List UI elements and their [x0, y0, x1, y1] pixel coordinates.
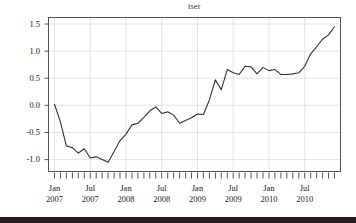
y-axis-tick-label: 0.0 [14, 100, 40, 110]
x-axis-tick-label: Jan2007 [35, 183, 75, 205]
x-axis-tick-label: Jul2008 [142, 183, 182, 205]
x-axis-tick-year: 2007 [35, 194, 75, 205]
x-axis-tick-year: 2010 [249, 194, 289, 205]
plot-frame [49, 18, 341, 172]
data-series-line [55, 27, 335, 163]
y-axis-tick-marks [45, 24, 49, 160]
x-axis-tick-month: Jan [35, 183, 75, 194]
x-axis-tick-year: 2007 [70, 194, 110, 205]
x-axis-tick-label: Jan2008 [106, 183, 146, 205]
x-axis-tick-month: Jan [249, 183, 289, 194]
x-axis-tick-label: Jan2010 [249, 183, 289, 205]
x-axis-tick-month: Jul [142, 183, 182, 194]
x-axis-tick-month: Jul [213, 183, 253, 194]
x-axis-tick-year: 2008 [106, 194, 146, 205]
x-axis-tick-year: 2008 [142, 194, 182, 205]
footer-bar [0, 217, 356, 223]
y-axis-tick-label: 0.5 [14, 73, 40, 83]
y-axis-tick-label: 1.5 [14, 19, 40, 29]
x-axis-tick-year: 2009 [177, 194, 217, 205]
x-axis-tick-month: Jul [285, 183, 325, 194]
x-axis-tick-label: Jul2007 [70, 183, 110, 205]
y-axis-tick-label: 1.0 [14, 46, 40, 56]
x-axis-tick-month: Jan [177, 183, 217, 194]
x-axis-minor-ticks [55, 173, 335, 179]
x-axis-tick-year: 2009 [213, 194, 253, 205]
x-axis-tick-label: Jan2009 [177, 183, 217, 205]
y-axis-tick-label: -0.5 [14, 127, 40, 137]
y-axis-tick-label: -1.0 [14, 154, 40, 164]
x-axis-tick-month: Jul [70, 183, 110, 194]
x-axis-tick-year: 2010 [285, 194, 325, 205]
chart-figure: tser 1.51.00.50.0-0.5-1.0 Jan2007Jul2007… [0, 0, 356, 223]
x-axis-tick-label: Jul2010 [285, 183, 325, 205]
x-axis-tick-label: Jul2009 [213, 183, 253, 205]
grid-lines [49, 18, 341, 172]
x-axis-tick-month: Jan [106, 183, 146, 194]
